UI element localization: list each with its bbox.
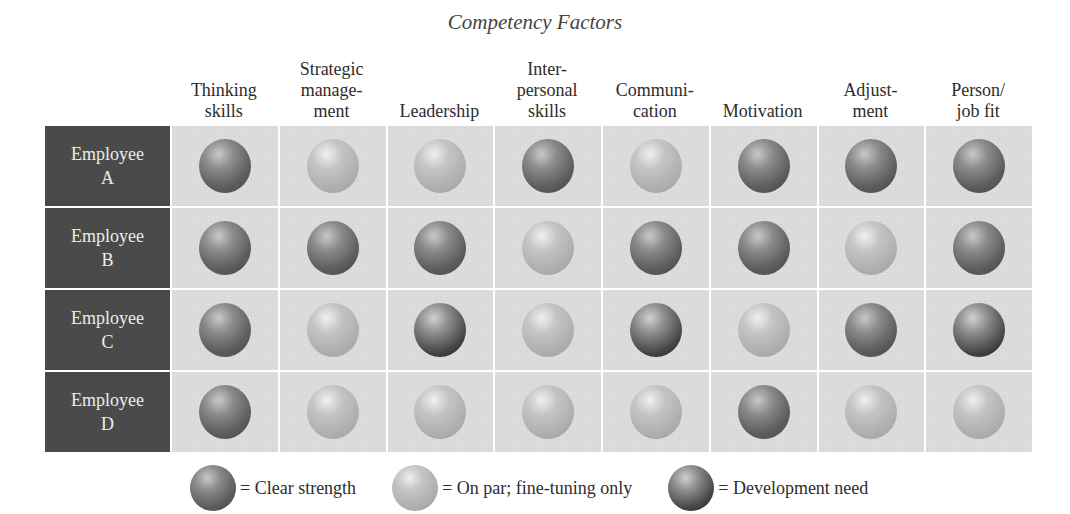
row-header: EmployeeA — [45, 126, 170, 206]
rating-cell — [280, 126, 386, 206]
column-header: Thinking skills — [170, 48, 278, 122]
strength-ball-icon — [738, 385, 790, 439]
strength-ball-icon — [738, 221, 790, 275]
rating-cell — [926, 372, 1032, 452]
strength-ball-icon — [953, 139, 1005, 193]
rating-cell — [819, 372, 925, 452]
par-ball-icon — [630, 385, 682, 439]
rating-cell — [603, 126, 709, 206]
par-ball-icon — [522, 385, 574, 439]
strength-ball-icon — [199, 385, 251, 439]
row-header: EmployeeC — [45, 290, 170, 370]
rating-cell — [926, 290, 1032, 370]
row-header: EmployeeD — [45, 372, 170, 452]
par-ball-icon — [953, 385, 1005, 439]
row-letter: D — [101, 412, 114, 436]
strength-ball-icon — [190, 465, 236, 511]
row-label: Employee — [71, 142, 144, 166]
legend-item-development: = Development need — [668, 465, 868, 511]
rating-cell — [819, 290, 925, 370]
rating-cell — [603, 372, 709, 452]
employee-row: EmployeeD — [45, 372, 1032, 452]
par-ball-icon — [414, 139, 466, 193]
rating-cell — [819, 208, 925, 288]
legend-label: = Development need — [718, 478, 868, 499]
rating-cell — [926, 208, 1032, 288]
rating-cell — [495, 372, 601, 452]
par-ball-icon — [392, 465, 438, 511]
rating-cell — [495, 290, 601, 370]
column-header: Strategic manage- ment — [278, 48, 386, 122]
development-ball-icon — [953, 303, 1005, 357]
row-letter: C — [101, 330, 113, 354]
strength-ball-icon — [522, 139, 574, 193]
strength-ball-icon — [199, 139, 251, 193]
rating-cell — [388, 372, 494, 452]
rating-cell — [172, 126, 278, 206]
rating-cell — [172, 372, 278, 452]
par-ball-icon — [307, 139, 359, 193]
rating-cell — [711, 208, 817, 288]
competency-grid: EmployeeAEmployeeBEmployeeCEmployeeD — [45, 126, 1032, 454]
column-header: Motivation — [709, 48, 817, 122]
row-letter: A — [101, 166, 114, 190]
row-label: Employee — [71, 224, 144, 248]
column-header: Person/ job fit — [924, 48, 1032, 122]
row-label: Employee — [71, 388, 144, 412]
strength-ball-icon — [199, 221, 251, 275]
development-ball-icon — [668, 465, 714, 511]
par-ball-icon — [845, 385, 897, 439]
par-ball-icon — [845, 221, 897, 275]
par-ball-icon — [414, 385, 466, 439]
rating-cell — [280, 290, 386, 370]
par-ball-icon — [307, 303, 359, 357]
strength-ball-icon — [845, 139, 897, 193]
column-header: Adjust- ment — [817, 48, 925, 122]
rating-cell — [495, 208, 601, 288]
legend-item-strength: = Clear strength — [190, 465, 356, 511]
legend-item-par: = On par; fine-tuning only — [392, 465, 632, 511]
column-header: Inter- personal skills — [493, 48, 601, 122]
rating-cell — [711, 372, 817, 452]
employee-row: EmployeeB — [45, 208, 1032, 288]
par-ball-icon — [738, 303, 790, 357]
column-header: Leadership — [386, 48, 494, 122]
strength-ball-icon — [414, 221, 466, 275]
strength-ball-icon — [953, 221, 1005, 275]
development-ball-icon — [630, 303, 682, 357]
chart-title: Competency Factors — [0, 10, 1070, 35]
column-headers: Thinking skillsStrategic manage- mentLea… — [170, 48, 1032, 122]
rating-cell — [819, 126, 925, 206]
row-label: Employee — [71, 306, 144, 330]
strength-ball-icon — [630, 221, 682, 275]
strength-ball-icon — [845, 303, 897, 357]
rating-cell — [388, 290, 494, 370]
rating-cell — [711, 290, 817, 370]
rating-cell — [172, 290, 278, 370]
rating-cell — [495, 126, 601, 206]
rating-cell — [388, 208, 494, 288]
rating-cell — [280, 372, 386, 452]
rating-cell — [926, 126, 1032, 206]
par-ball-icon — [307, 385, 359, 439]
legend-label: = On par; fine-tuning only — [442, 478, 632, 499]
development-ball-icon — [414, 303, 466, 357]
strength-ball-icon — [307, 221, 359, 275]
rating-cell — [603, 208, 709, 288]
row-header: EmployeeB — [45, 208, 170, 288]
row-letter: B — [101, 248, 113, 272]
employee-row: EmployeeA — [45, 126, 1032, 206]
legend-label: = Clear strength — [240, 478, 356, 499]
column-header: Communi- cation — [601, 48, 709, 122]
rating-cell — [711, 126, 817, 206]
employee-row: EmployeeC — [45, 290, 1032, 370]
rating-cell — [172, 208, 278, 288]
par-ball-icon — [522, 221, 574, 275]
par-ball-icon — [630, 139, 682, 193]
legend: = Clear strength= On par; fine-tuning on… — [190, 465, 904, 511]
rating-cell — [388, 126, 494, 206]
rating-cell — [280, 208, 386, 288]
strength-ball-icon — [738, 139, 790, 193]
par-ball-icon — [522, 303, 574, 357]
strength-ball-icon — [199, 303, 251, 357]
